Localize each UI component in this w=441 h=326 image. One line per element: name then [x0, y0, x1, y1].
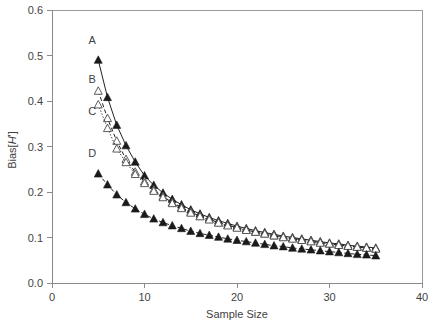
chart-figure: 010203040 0.00.10.20.30.40.50.6 ABCD Sam…: [0, 0, 441, 326]
y-axis-title-italic: H: [6, 136, 18, 144]
series-label-b: B: [89, 73, 96, 85]
y-tick-label: 0.5: [28, 50, 43, 62]
y-tick-label: 0.3: [28, 141, 43, 153]
svg-text:Bias[H']: Bias[H']: [6, 131, 18, 169]
y-axis-title: Bias[H']: [6, 131, 18, 169]
x-tick-label: 20: [231, 291, 243, 303]
y-tick-label: 0.0: [28, 277, 43, 289]
x-tick-label: 10: [138, 291, 150, 303]
y-axis-title-suffix: ']: [6, 131, 18, 136]
series-label-d: D: [88, 147, 96, 159]
y-axis-title-prefix: Bias[: [6, 144, 18, 168]
x-tick-label: 40: [416, 291, 428, 303]
bias-vs-sample-size-chart: 010203040 0.00.10.20.30.40.50.6 ABCD Sam…: [0, 0, 441, 326]
y-tick-label: 0.4: [28, 95, 43, 107]
series-label-c: C: [88, 105, 96, 117]
x-tick-label: 0: [49, 291, 55, 303]
chart-background: [0, 0, 441, 326]
series-label-a: A: [89, 34, 97, 46]
y-tick-label: 0.6: [28, 4, 43, 16]
x-axis-title: Sample Size: [206, 308, 268, 320]
x-tick-label: 30: [323, 291, 335, 303]
y-tick-label: 0.2: [28, 186, 43, 198]
y-tick-label: 0.1: [28, 232, 43, 244]
